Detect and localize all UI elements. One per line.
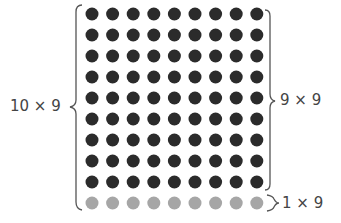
dark-dot [189, 155, 202, 168]
dark-dot [147, 176, 160, 189]
dark-dot [168, 92, 181, 105]
light-dot [168, 197, 181, 210]
dark-dot [189, 29, 202, 42]
light-dot [86, 197, 99, 210]
dark-dot [86, 92, 99, 105]
dark-dot [189, 8, 202, 21]
dark-dot [230, 113, 243, 126]
dark-dot [147, 134, 160, 147]
dark-dot [168, 50, 181, 63]
dark-dot [147, 29, 160, 42]
dark-dot [230, 50, 243, 63]
dark-dot [189, 113, 202, 126]
right-brace-9x9-icon [265, 10, 275, 190]
dark-dot [209, 29, 222, 42]
dark-dot [189, 92, 202, 105]
dark-dot [209, 8, 222, 21]
dark-dot [147, 50, 160, 63]
dark-dot [230, 134, 243, 147]
dark-dot [147, 155, 160, 168]
dark-dot [127, 71, 140, 84]
light-dot [230, 197, 243, 210]
dark-dot [86, 71, 99, 84]
dark-dot [86, 155, 99, 168]
dark-dot [230, 92, 243, 105]
dark-dot [86, 134, 99, 147]
dark-dot [147, 92, 160, 105]
label-9x9: 9 × 9 [280, 91, 321, 109]
dark-dot [230, 155, 243, 168]
right-brace-1x9-icon [267, 195, 279, 211]
light-dot [147, 197, 160, 210]
dark-dot [230, 176, 243, 189]
dark-dot [168, 71, 181, 84]
dark-dot [86, 176, 99, 189]
dark-dot [168, 134, 181, 147]
dark-dot [250, 71, 263, 84]
light-dot [209, 197, 222, 210]
dark-dot [106, 113, 119, 126]
dark-dot [168, 8, 181, 21]
dark-dot [230, 8, 243, 21]
dark-dot [189, 50, 202, 63]
dark-dot [168, 155, 181, 168]
dark-dot [189, 71, 202, 84]
label-1x9: 1 × 9 [282, 194, 323, 212]
light-dot [127, 197, 140, 210]
dark-dot [250, 29, 263, 42]
dark-dot [127, 176, 140, 189]
dark-dot [106, 92, 119, 105]
dark-dot [209, 113, 222, 126]
dark-dot [250, 176, 263, 189]
left-brace-icon [70, 5, 82, 210]
dark-dot [147, 71, 160, 84]
dark-dot [209, 50, 222, 63]
dark-dot [86, 113, 99, 126]
dark-dot [250, 155, 263, 168]
dark-dot [127, 8, 140, 21]
dark-dot [127, 134, 140, 147]
dark-dot [250, 8, 263, 21]
dark-dot [250, 134, 263, 147]
dark-dot [230, 29, 243, 42]
dark-dot [189, 134, 202, 147]
dot-grid [86, 8, 264, 210]
light-dot [250, 197, 263, 210]
dark-dot [168, 29, 181, 42]
dark-dot [106, 134, 119, 147]
dark-dot [209, 155, 222, 168]
dark-dot [147, 113, 160, 126]
dark-dot [189, 176, 202, 189]
dark-dot [127, 50, 140, 63]
dark-dot [147, 8, 160, 21]
light-dot [106, 197, 119, 210]
label-10x9: 10 × 9 [10, 97, 61, 115]
dark-dot [127, 29, 140, 42]
dark-dot [106, 71, 119, 84]
dark-dot [250, 50, 263, 63]
dark-dot [106, 29, 119, 42]
dark-dot [127, 92, 140, 105]
dark-dot [106, 8, 119, 21]
dark-dot [168, 176, 181, 189]
dark-dot [127, 155, 140, 168]
dark-dot [230, 71, 243, 84]
dark-dot [106, 155, 119, 168]
light-dot [189, 197, 202, 210]
dark-dot [209, 176, 222, 189]
dark-dot [86, 8, 99, 21]
dark-dot [209, 71, 222, 84]
dark-dot [250, 92, 263, 105]
dark-dot [106, 50, 119, 63]
dark-dot [250, 113, 263, 126]
dark-dot [168, 113, 181, 126]
dark-dot [86, 50, 99, 63]
dark-dot [209, 92, 222, 105]
dark-dot [127, 113, 140, 126]
dark-dot [209, 134, 222, 147]
dark-dot [106, 176, 119, 189]
dark-dot [86, 29, 99, 42]
